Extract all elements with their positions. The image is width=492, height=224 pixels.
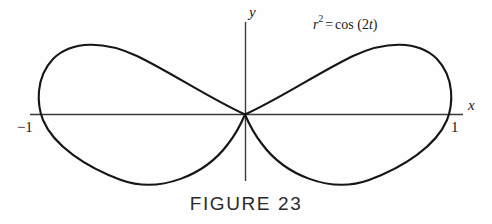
equation-equals: =	[323, 17, 335, 32]
y-axis-label: y	[249, 5, 256, 20]
x-tick-label-positive-one: 1	[451, 120, 459, 135]
lemniscate-plot	[0, 0, 492, 224]
equation-exponent: 2	[318, 14, 323, 24]
figure-caption: FIGURE 23	[0, 193, 492, 215]
x-axis-label: x	[468, 98, 475, 113]
equation-function: cos	[335, 17, 354, 32]
equation-argument-close: )	[373, 17, 378, 32]
equation-annotation: r2=cos (2t)	[313, 16, 378, 32]
figure-container: y x −1 1 r2=cos (2t) FIGURE 23	[0, 0, 492, 224]
x-tick-label-negative-one: −1	[17, 120, 33, 135]
equation-argument-open: (2	[357, 17, 369, 32]
